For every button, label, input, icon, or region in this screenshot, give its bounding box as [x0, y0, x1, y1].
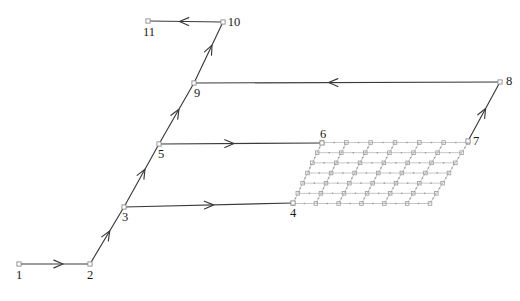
node-label-5: 5	[158, 147, 164, 161]
node-label-8: 8	[506, 74, 512, 88]
mesh-midside-node	[304, 203, 305, 204]
mesh-midside-node	[367, 147, 368, 148]
node-marker-5[interactable]	[157, 142, 161, 146]
mesh-midside-node	[398, 177, 399, 178]
mesh-midside-node	[410, 157, 411, 158]
mesh-midside-node	[357, 167, 358, 168]
arrowhead-3-to-5	[137, 169, 145, 179]
mesh-midside-node	[328, 177, 329, 178]
arrowhead-7-to-8	[478, 109, 486, 119]
mesh-midside-node	[451, 167, 452, 168]
mesh-midside-node	[347, 162, 348, 163]
node-marker-4[interactable]	[291, 201, 295, 205]
mesh-midside-node	[355, 193, 356, 194]
mesh-midside-node	[387, 198, 388, 199]
node-marker-11[interactable]	[146, 19, 150, 23]
edge-7-to-8	[468, 82, 500, 141]
mesh-midside-node	[416, 147, 417, 148]
node-marker-2[interactable]	[88, 262, 92, 266]
mesh-midside-node	[343, 147, 344, 148]
mesh-midside-node	[413, 172, 414, 173]
mesh-midside-node	[338, 157, 339, 158]
mesh-midside-node	[407, 182, 408, 183]
mesh-midside-node	[351, 177, 352, 178]
mesh-midside-node	[424, 193, 425, 194]
mesh-midside-node	[360, 182, 361, 183]
mesh-midside-node	[362, 157, 363, 158]
mesh-midside-node	[380, 167, 381, 168]
node-marker-3[interactable]	[122, 205, 126, 209]
mesh-midside-node	[458, 157, 459, 158]
edge-3-to-5	[124, 144, 159, 207]
mesh-midside-node	[455, 142, 456, 143]
mesh-midside-node	[304, 177, 305, 178]
mesh-midside-node	[410, 198, 411, 199]
mesh-midside-node	[327, 203, 328, 204]
mesh-midside-node	[337, 182, 338, 183]
mesh-midside-node	[416, 188, 417, 189]
mesh-midside-node	[431, 142, 432, 143]
mesh-midside-node	[300, 188, 301, 189]
node-label-1: 1	[16, 268, 22, 282]
mesh-midside-node	[377, 152, 378, 153]
mesh-midside-node	[440, 147, 441, 148]
node-marker-1[interactable]	[17, 262, 21, 266]
mesh-midside-node	[364, 198, 365, 199]
node-marker-10[interactable]	[221, 20, 225, 24]
labels-layer: 1234567891011	[16, 15, 512, 282]
edge-3-to-4	[124, 203, 293, 207]
edge-5-to-9	[159, 83, 194, 144]
mesh-midside-node	[449, 152, 450, 153]
node-marker-7[interactable]	[466, 139, 470, 143]
mesh-midside-node	[295, 198, 296, 199]
mesh-midside-node	[418, 203, 419, 204]
mesh-midside-node	[382, 142, 383, 143]
mesh-midside-node	[309, 193, 310, 194]
mesh-midside-node	[372, 203, 373, 204]
mesh-midside-node	[318, 198, 319, 199]
mesh-midside-node	[445, 177, 446, 178]
mesh-midside-node	[392, 188, 393, 189]
mesh-midside-node	[314, 182, 315, 183]
mesh-midside-node	[422, 177, 423, 178]
mesh-midside-node	[392, 147, 393, 148]
node-marker-9[interactable]	[192, 81, 196, 85]
edge-9-to-10	[194, 22, 223, 83]
mesh-midside-node	[319, 147, 320, 148]
mesh-midside-node	[333, 167, 334, 168]
mesh-midside-node	[349, 203, 350, 204]
edge-10-to-11	[148, 21, 223, 22]
edge-5-to-6	[159, 143, 322, 144]
mesh-midside-node	[375, 177, 376, 178]
node-label-7: 7	[473, 134, 479, 148]
mesh-midside-node	[389, 172, 390, 173]
mesh-midside-node	[404, 167, 405, 168]
mesh-midside-node	[401, 152, 402, 153]
edge-2-to-3	[90, 207, 124, 264]
mesh-midside-node	[309, 167, 310, 168]
mesh-midside-node	[430, 182, 431, 183]
arrowhead-2-to-3	[102, 231, 110, 241]
mesh-midside-node	[353, 152, 354, 153]
mesh-midside-node	[371, 162, 372, 163]
edge-8-to-9	[194, 82, 500, 83]
mesh-midside-node	[332, 193, 333, 194]
arrowhead-5-to-9	[171, 109, 179, 119]
node-label-6: 6	[320, 127, 326, 141]
node-label-11: 11	[143, 25, 155, 39]
node-label-9: 9	[194, 86, 200, 100]
mesh-midside-node	[384, 182, 385, 183]
mesh-midside-node	[378, 193, 379, 194]
mesh-midside-node	[329, 152, 330, 153]
mesh-midside-node	[386, 157, 387, 158]
node-marker-6[interactable]	[320, 141, 324, 145]
mesh-midside-node	[432, 198, 433, 199]
node-label-4: 4	[290, 206, 297, 220]
node-label-3: 3	[122, 210, 128, 224]
mesh-midside-node	[437, 172, 438, 173]
mesh-midside-node	[341, 198, 342, 199]
mesh-midside-node	[406, 142, 407, 143]
node-marker-8[interactable]	[498, 80, 502, 84]
mesh-midside-node	[425, 152, 426, 153]
mesh-midside-node	[369, 188, 370, 189]
